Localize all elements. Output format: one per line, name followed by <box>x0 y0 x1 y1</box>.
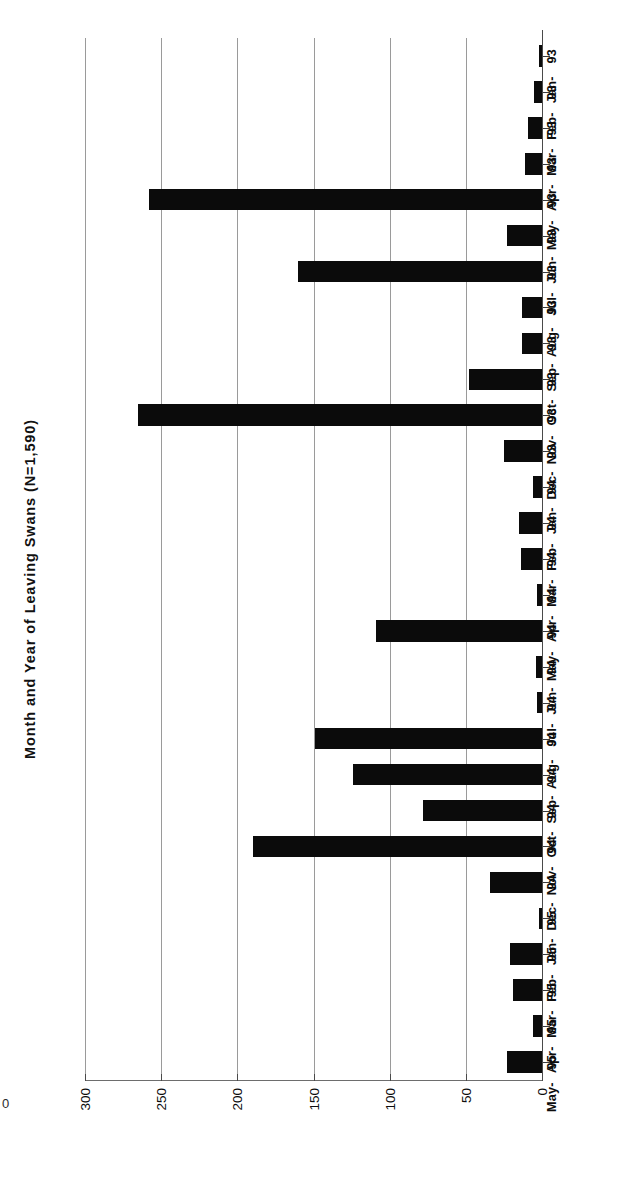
bar[interactable] <box>149 189 542 211</box>
bar[interactable] <box>138 404 542 426</box>
category-label-year: 93 <box>545 408 559 422</box>
bar-row <box>85 836 542 858</box>
category-label-year: 94 <box>545 732 559 746</box>
bar[interactable] <box>315 728 542 750</box>
bar-row <box>85 261 542 283</box>
bar[interactable] <box>533 476 542 498</box>
bar[interactable] <box>504 440 542 462</box>
bar-row <box>85 1051 542 1073</box>
bar[interactable] <box>423 800 542 822</box>
value-tick <box>390 1074 391 1081</box>
value-tick <box>314 1074 315 1081</box>
value-tick-label: 100 <box>382 1088 398 1128</box>
value-tick-label: 200 <box>229 1088 245 1128</box>
bar-row <box>85 189 542 211</box>
bar-row <box>85 153 542 175</box>
bar-row <box>85 512 542 534</box>
value-tick-label-text: 200 <box>230 1088 245 1111</box>
bar[interactable] <box>253 836 542 858</box>
bar[interactable] <box>469 369 542 391</box>
category-label-year: 94 <box>545 768 559 782</box>
category-tick-label: May-95 <box>545 1055 617 1069</box>
category-tick-label: Aug-93 <box>545 300 617 314</box>
category-label-year: 93 <box>545 444 559 458</box>
bar[interactable] <box>522 333 542 355</box>
bar-row <box>85 476 542 498</box>
category-label-year: 95 <box>545 947 559 961</box>
category-tick-label: Oct-94 <box>545 804 617 818</box>
category-label-month: May- <box>545 1082 559 1112</box>
bar-row <box>85 369 542 391</box>
bar-row <box>85 800 542 822</box>
bar-row <box>85 979 542 1001</box>
bar[interactable] <box>522 297 542 319</box>
scan-edge-artifact: 0 <box>2 1096 9 1111</box>
bar[interactable] <box>353 764 542 786</box>
value-tick-label: 150 <box>306 1088 322 1128</box>
category-label-year: 93 <box>545 265 559 279</box>
category-tick-label: Mar-93 <box>545 121 617 135</box>
bar-row <box>85 404 542 426</box>
category-tick-label: Feb-93 <box>545 85 617 99</box>
figure-page: Month and Year of Leaving Swans (N=1,590… <box>0 0 617 1177</box>
bar[interactable] <box>510 943 542 965</box>
category-tick-label: Sep-93 <box>545 336 617 350</box>
bar[interactable] <box>533 1015 542 1037</box>
bar-row <box>85 584 542 606</box>
category-tick-label: May-93 <box>545 193 617 207</box>
category-label-year: 94 <box>545 875 559 889</box>
category-label-year: 93 <box>545 372 559 386</box>
bar-row <box>85 1015 542 1037</box>
bar-row <box>85 548 542 570</box>
bar-row <box>85 692 542 714</box>
category-label-year: 94 <box>545 804 559 818</box>
bar[interactable] <box>525 153 542 175</box>
category-tick-label: Oct-93 <box>545 372 617 386</box>
value-tick-label-text: 150 <box>306 1088 321 1111</box>
category-tick-label: Sep-94 <box>545 768 617 782</box>
bar-row <box>85 81 542 103</box>
category-tick-label: Aug-94 <box>545 732 617 746</box>
category-label-year: 93 <box>545 49 559 63</box>
category-label-year: 94 <box>545 552 559 566</box>
value-tick-label: 250 <box>153 1088 169 1128</box>
bar[interactable] <box>376 620 542 642</box>
category-tick-label: Jan-93 <box>545 49 617 63</box>
bar[interactable] <box>298 261 542 283</box>
bar-row <box>85 117 542 139</box>
chart-title-container: Month and Year of Leaving Swans (N=1,590… <box>0 0 60 1177</box>
page-title: Month and Year of Leaving Swans (N=1,590… <box>22 418 38 758</box>
bar-row <box>85 764 542 786</box>
category-label-year: 94 <box>545 624 559 638</box>
category-label-year: 93 <box>545 85 559 99</box>
category-label-year: 94 <box>545 660 559 674</box>
category-label-year: 94 <box>545 839 559 853</box>
category-tick-label: Apr-94 <box>545 588 617 602</box>
value-tick <box>542 1074 543 1081</box>
category-tick-label: Jun-94 <box>545 660 617 674</box>
bar[interactable] <box>490 872 542 894</box>
plot-area <box>85 38 542 1080</box>
bar-row <box>85 333 542 355</box>
category-label-year: 95 <box>545 1055 559 1069</box>
bar[interactable] <box>521 548 542 570</box>
value-tick <box>237 1074 238 1081</box>
category-label-year: 95 <box>545 1019 559 1033</box>
bar-row <box>85 440 542 462</box>
value-tick <box>161 1074 162 1081</box>
value-tick-label-text: 100 <box>382 1088 397 1111</box>
bar[interactable] <box>507 1051 542 1073</box>
bar-row <box>85 620 542 642</box>
bar[interactable] <box>507 225 542 247</box>
category-tick-label: Jun-93 <box>545 229 617 243</box>
category-label-year: 93 <box>545 336 559 350</box>
category-tick-label: Nov-94 <box>545 839 617 853</box>
bar[interactable] <box>528 117 542 139</box>
value-tick-label-text: 300 <box>78 1088 93 1111</box>
bar[interactable] <box>534 81 542 103</box>
bar[interactable] <box>513 979 542 1001</box>
category-label-year: 93 <box>545 121 559 135</box>
value-tick <box>466 1074 467 1081</box>
bar[interactable] <box>519 512 542 534</box>
category-label-year: 95 <box>545 911 559 925</box>
